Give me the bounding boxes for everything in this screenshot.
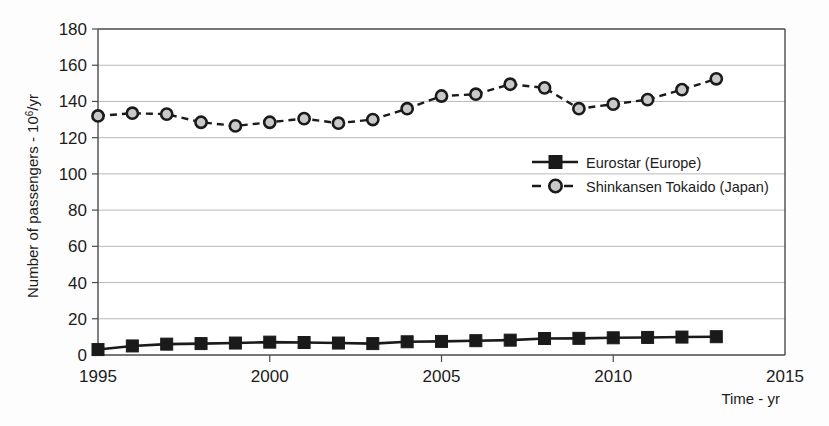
data-point-marker bbox=[504, 334, 516, 346]
x-tick-label: 2005 bbox=[423, 367, 461, 386]
legend-label-eurostar: Eurostar (Europe) bbox=[586, 155, 701, 171]
data-point-marker bbox=[470, 89, 481, 100]
y-axis-title: Number of passengers - 106/yr bbox=[24, 94, 41, 298]
legend-marker-filled-square-icon bbox=[549, 156, 562, 169]
x-axis-ticks bbox=[270, 355, 614, 362]
y-tick-label: 100 bbox=[59, 165, 87, 184]
passenger-trend-line-chart: 020406080100120140160180 199520002005201… bbox=[0, 0, 829, 426]
data-point-marker bbox=[401, 336, 413, 348]
data-point-marker bbox=[126, 340, 138, 352]
data-point-marker bbox=[195, 338, 207, 350]
data-point-marker bbox=[161, 109, 172, 120]
legend-item-eurostar: Eurostar (Europe) bbox=[532, 155, 701, 171]
y-tick-label: 160 bbox=[59, 56, 87, 75]
x-axis-tick-labels: 19952000200520102015 bbox=[79, 367, 804, 386]
data-point-marker bbox=[710, 331, 722, 343]
data-point-marker bbox=[711, 73, 722, 84]
data-point-marker bbox=[92, 110, 103, 121]
data-point-marker bbox=[332, 337, 344, 349]
y-tick-label: 60 bbox=[68, 237, 87, 256]
data-point-marker bbox=[573, 103, 584, 114]
data-point-marker bbox=[539, 82, 550, 93]
data-point-marker bbox=[436, 335, 448, 347]
data-point-marker bbox=[367, 114, 378, 125]
data-point-marker bbox=[298, 337, 310, 349]
data-point-marker bbox=[505, 79, 516, 90]
data-point-marker bbox=[573, 332, 585, 344]
data-point-marker bbox=[436, 90, 447, 101]
y-tick-label: 180 bbox=[59, 20, 87, 39]
data-point-marker bbox=[676, 84, 687, 95]
data-point-marker bbox=[676, 331, 688, 343]
y-tick-label: 20 bbox=[68, 310, 87, 329]
data-point-marker bbox=[299, 113, 310, 124]
x-tick-label: 2015 bbox=[766, 367, 804, 386]
data-point-marker bbox=[470, 335, 482, 347]
y-tick-label: 80 bbox=[68, 201, 87, 220]
data-point-marker bbox=[539, 333, 551, 345]
x-tick-label: 2000 bbox=[251, 367, 289, 386]
data-point-marker bbox=[127, 108, 138, 119]
data-point-marker bbox=[608, 99, 619, 110]
y-tick-label: 0 bbox=[78, 346, 87, 365]
chart-figure: 020406080100120140160180 199520002005201… bbox=[0, 0, 829, 426]
data-point-marker bbox=[367, 338, 379, 350]
x-tick-label: 1995 bbox=[79, 367, 117, 386]
y-axis-ticks bbox=[92, 29, 98, 355]
x-tick-label: 2010 bbox=[594, 367, 632, 386]
data-point-marker bbox=[402, 103, 413, 114]
y-axis-tick-labels: 020406080100120140160180 bbox=[59, 20, 87, 365]
data-point-marker bbox=[642, 331, 654, 343]
data-point-marker bbox=[607, 332, 619, 344]
legend-label-shinkansen: Shinkansen Tokaido (Japan) bbox=[586, 179, 769, 195]
data-point-marker bbox=[195, 117, 206, 128]
data-point-marker bbox=[264, 336, 276, 348]
data-point-marker bbox=[92, 344, 104, 356]
data-point-marker bbox=[642, 94, 653, 105]
data-point-marker bbox=[229, 337, 241, 349]
data-point-marker bbox=[264, 117, 275, 128]
data-point-marker bbox=[230, 120, 241, 131]
y-tick-label: 40 bbox=[68, 274, 87, 293]
x-axis-title: Time - yr bbox=[721, 390, 780, 407]
y-tick-label: 140 bbox=[59, 92, 87, 111]
data-point-marker bbox=[333, 118, 344, 129]
data-point-marker bbox=[161, 338, 173, 350]
y-tick-label: 120 bbox=[59, 129, 87, 148]
legend-marker-open-circle-icon bbox=[549, 180, 561, 192]
